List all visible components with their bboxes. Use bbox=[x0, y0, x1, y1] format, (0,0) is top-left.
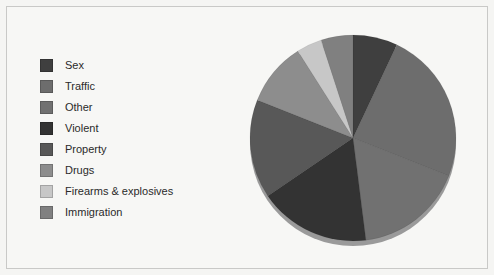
legend-swatch-icon bbox=[40, 164, 53, 177]
legend-item-label: Drugs bbox=[65, 164, 94, 177]
legend-swatch-icon bbox=[40, 206, 53, 219]
legend-item-immigration[interactable]: Immigration bbox=[40, 202, 230, 222]
legend-item-firearms-explosives[interactable]: Firearms & explosives bbox=[40, 181, 230, 201]
legend-item-label: Violent bbox=[65, 122, 98, 135]
legend-item-label: Other bbox=[65, 101, 93, 114]
legend-swatch-icon bbox=[40, 185, 53, 198]
legend-item-other[interactable]: Other bbox=[40, 97, 230, 117]
legend-item-label: Firearms & explosives bbox=[65, 185, 173, 198]
legend-item-violent[interactable]: Violent bbox=[40, 118, 230, 138]
pie-slices bbox=[250, 35, 456, 241]
figure-canvas: Sex Traffic Other Violent Property Drugs bbox=[0, 0, 494, 275]
legend-item-label: Sex bbox=[65, 59, 84, 72]
legend-item-label: Traffic bbox=[65, 80, 95, 93]
legend-swatch-icon bbox=[40, 80, 53, 93]
legend-item-drugs[interactable]: Drugs bbox=[40, 160, 230, 180]
legend-swatch-icon bbox=[40, 143, 53, 156]
plot-frame: Sex Traffic Other Violent Property Drugs bbox=[6, 6, 488, 269]
legend-swatch-icon bbox=[40, 122, 53, 135]
legend-item-label: Immigration bbox=[65, 206, 122, 219]
legend: Sex Traffic Other Violent Property Drugs bbox=[40, 55, 230, 223]
pie-chart-svg bbox=[248, 31, 460, 247]
legend-item-property[interactable]: Property bbox=[40, 139, 230, 159]
legend-swatch-icon bbox=[40, 101, 53, 114]
pie-chart bbox=[248, 31, 460, 247]
legend-item-label: Property bbox=[65, 143, 107, 156]
legend-item-sex[interactable]: Sex bbox=[40, 55, 230, 75]
legend-item-traffic[interactable]: Traffic bbox=[40, 76, 230, 96]
legend-swatch-icon bbox=[40, 59, 53, 72]
